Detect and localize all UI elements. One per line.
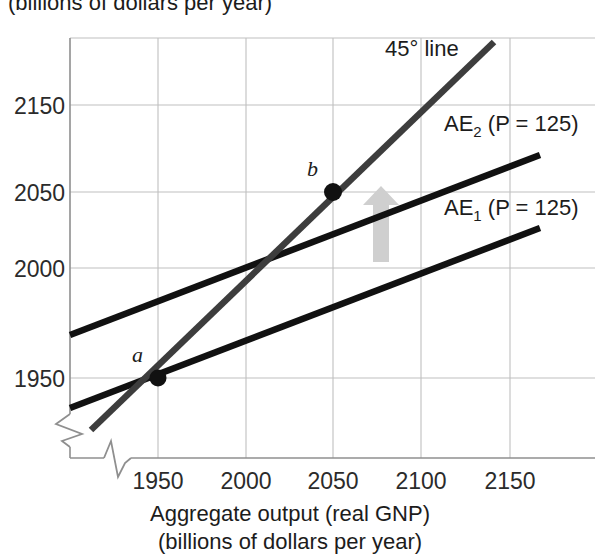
y-axis-break-icon <box>56 414 82 447</box>
label-ae1-subscript: 1 <box>473 207 481 224</box>
label-ae2: AE2 (P = 125) <box>444 111 579 140</box>
curve-45-degree <box>91 42 494 430</box>
x-tick-label-2100: 2100 <box>395 468 446 494</box>
axes <box>56 38 595 477</box>
x-axis-title-line2: (billions of dollars per year) <box>158 529 422 554</box>
point-a-label: a <box>132 342 143 367</box>
label-ae1-main: AE <box>444 195 473 220</box>
label-ae1-tail: (P = 125) <box>482 195 579 220</box>
x-tick-label-2000: 2000 <box>220 468 271 494</box>
x-tick-label-1950: 1950 <box>132 468 183 494</box>
y-tick-label-2150: 2150 <box>14 93 65 119</box>
label-ae1: AE1 (P = 125) <box>444 195 579 224</box>
equilibrium-point-b <box>324 183 342 201</box>
x-axis-break-icon <box>104 441 131 477</box>
y-tick-label-2000: 2000 <box>14 256 65 282</box>
label-ae2-main: AE <box>444 111 473 136</box>
curve-ae2 <box>70 155 540 335</box>
gridlines <box>70 38 595 458</box>
x-axis-title-line1: Aggregate output (real GNP) <box>150 501 430 526</box>
y-tick-label-2050: 2050 <box>14 180 65 206</box>
point-b-label: b <box>307 156 318 181</box>
label-45-degree-line: 45° line <box>385 36 459 61</box>
label-ae2-subscript: 2 <box>473 123 481 140</box>
x-tick-label-2150: 2150 <box>484 468 535 494</box>
label-ae2-tail: (P = 125) <box>482 111 579 136</box>
chart-figure: (billions of dollars per year) <box>0 0 595 557</box>
chart-canvas: (billions of dollars per year) <box>0 0 595 557</box>
equilibrium-point-a <box>150 370 167 387</box>
x-tick-label-2050: 2050 <box>307 468 358 494</box>
y-tick-label-1950: 1950 <box>14 366 65 392</box>
top-caption: (billions of dollars per year) <box>8 0 272 15</box>
